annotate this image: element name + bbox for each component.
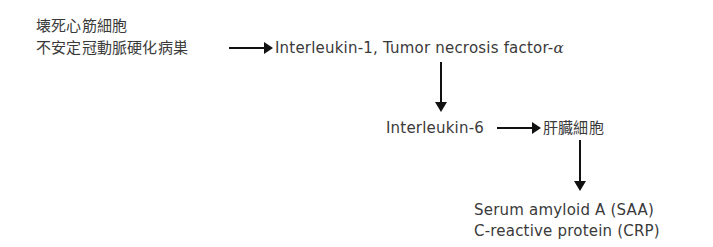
node-hepatocyte: 肝臓細胞 [543,119,604,137]
product-crp: C-reactive protein (CRP) [474,222,660,240]
alpha-symbol: α [553,39,563,57]
node-il6: Interleukin-6 [386,119,484,137]
node-il1-tnf: Interleukin-1, Tumor necrosis factor-α [275,39,564,57]
product-saa: Serum amyloid A (SAA) [474,201,654,219]
arrow-right-icon [497,127,539,129]
arrow-down-icon [579,140,581,189]
arrow-right-icon [229,47,271,49]
source-unstable-plaque: 不安定冠動脈硬化病巣 [36,39,188,57]
source-necrotic-myocardial-cells: 壊死心筋細胞 [36,17,127,35]
arrow-down-icon [440,62,442,110]
il1-tnf-label: Interleukin-1, Tumor necrosis factor- [275,39,553,57]
